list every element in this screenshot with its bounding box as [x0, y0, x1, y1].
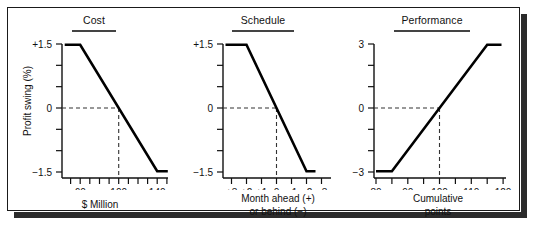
- breakeven-guide-schedule: [223, 108, 277, 178]
- plot-line-performance: [376, 45, 502, 172]
- y-ticks-performance: [368, 44, 374, 172]
- chart-title-performance: Performance: [346, 14, 518, 26]
- chart-svg-cost: +1.5 0 −1.5 60 100: [8, 30, 180, 190]
- chart-panel-performance: Performance 3 0 −3: [346, 8, 518, 212]
- figure-container: Cost Profit swing (%) +1.5 0: [0, 0, 537, 231]
- x-axis-label-cost: $ Million: [35, 199, 165, 212]
- y-tick-label-zero: 0: [207, 103, 213, 114]
- x-tick-label-80: 80: [370, 187, 382, 190]
- x-tick-label-60: 60: [75, 187, 87, 190]
- figure-shadow-right: [521, 14, 527, 218]
- chart-title-cost: Cost: [8, 14, 180, 26]
- x-tick-label-100: 100: [431, 187, 448, 190]
- x-tick-label-plus3: +3: [226, 187, 238, 190]
- x-tick-label-110: 110: [463, 187, 479, 190]
- chart-svg-performance: 3 0 −3 80 90 100 110: [346, 30, 518, 190]
- figure-frame: Cost Profit swing (%) +1.5 0: [7, 7, 520, 211]
- chart-title-schedule: Schedule: [180, 14, 346, 26]
- y-tick-label-neg15: −1.5: [32, 167, 52, 178]
- y-ticks-schedule: [217, 44, 223, 172]
- y-tick-label-neg15: −1.5: [193, 167, 213, 178]
- x-axis-label-performance: Cumulative points: [358, 193, 518, 218]
- x-tick-label-zero: 0: [274, 187, 280, 190]
- y-ticks-cost: [56, 44, 62, 172]
- x-tick-label-90: 90: [402, 187, 414, 190]
- breakeven-guide-performance: [374, 108, 440, 178]
- x-tick-label-100: 100: [110, 187, 127, 190]
- y-tick-label-zero: 0: [46, 103, 52, 114]
- x-tick-label-minus1: −1: [286, 187, 298, 190]
- x-tick-label-140: 140: [149, 187, 166, 190]
- y-tick-label-pos15: +1.5: [32, 39, 52, 50]
- breakeven-guide-cost: [62, 108, 119, 178]
- x-tick-label-plus2: +2: [241, 187, 253, 190]
- x-tick-label-minus3: −3: [316, 187, 328, 190]
- plot-line-cost: [65, 45, 168, 172]
- x-ticks-schedule: [232, 178, 322, 184]
- x-axis-label-line1: Cumulative: [358, 193, 518, 206]
- chart-panel-schedule: Schedule +1.5 0 −1.5: [180, 8, 346, 212]
- x-ticks-cost: [71, 178, 167, 184]
- x-tick-label-120: 120: [495, 187, 512, 190]
- x-tick-label-plus1: +1: [256, 187, 268, 190]
- y-tick-label-neg3: −3: [353, 167, 365, 178]
- x-axis-label-schedule: Month ahead (+) or behind (−): [198, 193, 358, 218]
- x-axis-label-line2: or behind (−): [198, 206, 358, 219]
- chart-svg-schedule: +1.5 0 −1.5 +3 +2 +1 0 −1 −2: [180, 30, 346, 190]
- y-tick-label-pos3: 3: [358, 39, 364, 50]
- x-axis-label-line2: points: [358, 206, 518, 219]
- x-tick-label-minus2: −2: [301, 187, 313, 190]
- x-ticks-performance: [376, 178, 503, 184]
- y-tick-label-zero: 0: [358, 103, 364, 114]
- chart-panel-cost: Cost Profit swing (%) +1.5 0: [8, 8, 180, 212]
- y-tick-label-pos15: +1.5: [193, 39, 213, 50]
- x-axis-label-line1: Month ahead (+): [198, 193, 358, 206]
